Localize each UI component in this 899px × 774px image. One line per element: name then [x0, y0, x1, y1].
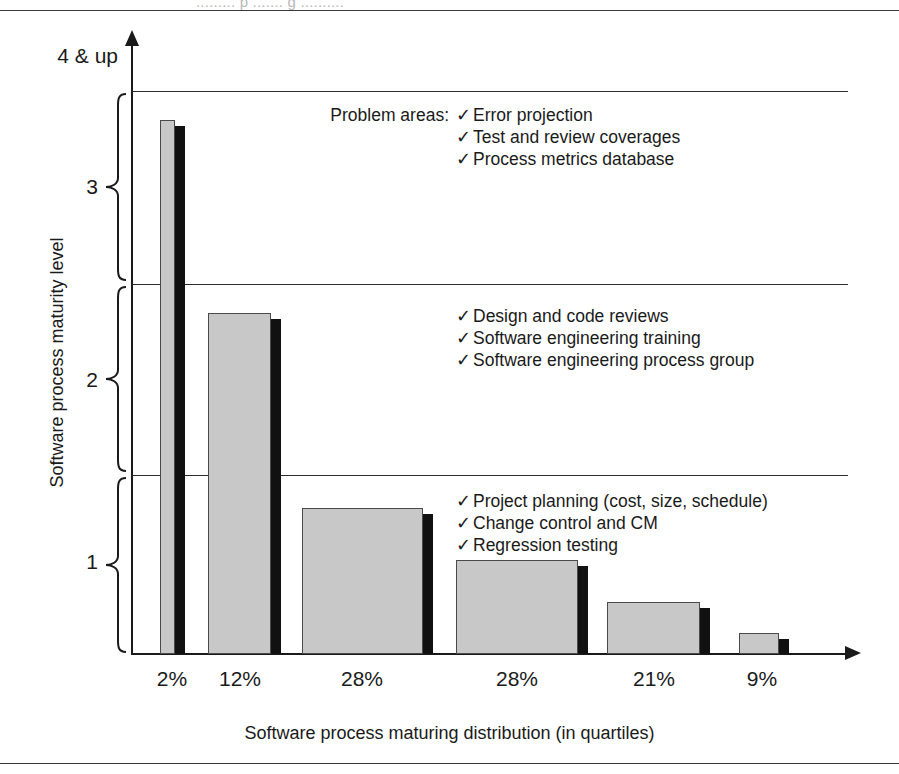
band-divider-level3	[131, 284, 848, 285]
y-axis-title: Software process maturity level	[47, 213, 68, 513]
y-brace-level3	[104, 92, 128, 282]
page-rule-top	[0, 10, 899, 11]
check-icon: ✓	[456, 327, 473, 349]
annotation-block-level1: ✓Project planning (cost, size, schedule)…	[456, 490, 768, 556]
annotation-text: Regression testing	[473, 535, 618, 555]
check-icon: ✓	[456, 349, 473, 371]
annotation-text: Design and code reviews	[473, 306, 669, 326]
check-icon: ✓	[456, 534, 473, 556]
annotation-text: Software engineering process group	[473, 350, 754, 370]
check-icon: ✓	[456, 305, 473, 327]
bar-2	[208, 313, 271, 654]
bar-shadow-2	[270, 319, 281, 654]
y-tick-label-3: 3	[10, 175, 98, 199]
check-icon: ✓	[456, 126, 473, 148]
annotation-row: ✓Software engineering process group	[456, 349, 754, 371]
y-brace-level2	[104, 285, 128, 473]
annotation-row: ✓Test and review coverages	[456, 126, 680, 148]
annotation-row: ✓Design and code reviews	[456, 305, 754, 327]
annotation-text: Test and review coverages	[473, 127, 680, 147]
annotation-row: ✓Change control and CM	[456, 512, 768, 534]
scan-sliver-text: ......... p ....... g ..........	[196, 0, 344, 10]
annotation-text: Error projection	[473, 105, 593, 125]
bar-shadow-1	[174, 126, 185, 654]
annotation-row: ✓Error projection	[456, 104, 680, 126]
problem-areas-label: Problem areas:	[330, 104, 456, 126]
bar-shadow-4	[577, 566, 588, 654]
bar-shadow-3	[422, 514, 433, 654]
annotation-row: ✓Project planning (cost, size, schedule)	[456, 490, 768, 512]
x-tick-label-5: 21%	[614, 667, 694, 691]
annotation-row: ✓Software engineering training	[456, 327, 754, 349]
check-icon: ✓	[456, 148, 473, 170]
annotation-block-level2: ✓Design and code reviews ✓Software engin…	[456, 305, 754, 371]
x-axis-title: Software process maturing distribution (…	[0, 723, 899, 744]
annotation-row: ✓Process metrics database	[456, 148, 680, 170]
y-tick-label-1: 1	[10, 550, 98, 574]
x-tick-label-2: 12%	[200, 667, 280, 691]
bar-1	[160, 120, 175, 654]
y-tick-label-2: 2	[10, 368, 98, 392]
x-tick-label-4: 28%	[477, 667, 557, 691]
page-rule-bottom	[0, 763, 899, 764]
bar-5	[607, 602, 700, 654]
x-axis-arrow-icon	[845, 646, 861, 660]
figure-canvas: ......... p ....... g .......... Softwar…	[0, 0, 899, 774]
check-icon: ✓	[456, 512, 473, 534]
x-tick-label-6: 9%	[722, 667, 802, 691]
check-icon: ✓	[456, 490, 473, 512]
annotation-text: Change control and CM	[473, 513, 658, 533]
annotation-text: Process metrics database	[473, 149, 674, 169]
x-tick-label-3: 28%	[322, 667, 402, 691]
annotation-text: Software engineering training	[473, 328, 701, 348]
band-divider-level4	[131, 91, 848, 92]
bar-6	[739, 633, 779, 654]
check-icon: ✓	[456, 104, 473, 126]
y-tick-label-4-and-up: 4 & up	[10, 44, 118, 68]
y-axis-arrow-icon	[125, 30, 139, 46]
bar-4	[456, 560, 578, 654]
y-axis-line	[131, 44, 133, 654]
bar-shadow-6	[778, 639, 789, 654]
annotation-row: ✓Regression testing	[456, 534, 768, 556]
annotation-text: Project planning (cost, size, schedule)	[473, 491, 768, 511]
bar-shadow-5	[699, 608, 710, 654]
y-brace-level1	[104, 476, 128, 654]
annotation-block-level3: Problem areas: ✓Error projection ✓Test a…	[456, 104, 680, 170]
bar-3	[302, 508, 423, 654]
